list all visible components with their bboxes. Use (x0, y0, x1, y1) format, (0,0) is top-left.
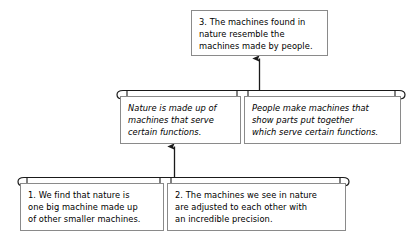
node-premise-people[interactable]: People make machines that show parts put… (244, 96, 401, 144)
node-premise-nature[interactable]: Nature is made up of machines that serve… (120, 96, 241, 144)
argument-diagram: 3. The machines found in nature resemble… (0, 0, 419, 241)
node-premise-nature-text: Nature is made up of machines that serve… (128, 102, 234, 139)
node-evidence-two[interactable]: 2. The machines we see in nature are adj… (167, 183, 346, 231)
node-evidence-one[interactable]: 1. We find that nature is one big machin… (20, 183, 164, 231)
node-premise-people-text: People make machines that show parts put… (252, 102, 394, 139)
node-evidence-two-text: 2. The machines we see in nature are adj… (175, 189, 339, 226)
node-conclusion-text: 3. The machines found in nature resemble… (199, 16, 321, 53)
node-conclusion[interactable]: 3. The machines found in nature resemble… (191, 10, 328, 56)
node-evidence-one-text: 1. We find that nature is one big machin… (28, 189, 157, 226)
